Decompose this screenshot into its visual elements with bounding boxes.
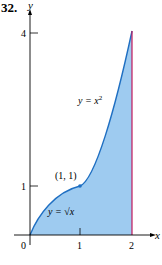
upper-curve-label: y = x2 xyxy=(77,94,103,106)
tick-label-x0: 0 xyxy=(21,240,26,251)
y-axis-label: y xyxy=(27,0,33,11)
x-axis-label: x xyxy=(154,229,160,241)
tick-label-y1: 1 xyxy=(21,181,26,192)
tick-label-x1: 1 xyxy=(77,240,82,251)
exponent: 2 xyxy=(99,94,103,102)
point-marker xyxy=(78,184,82,188)
tick-label-x2: 2 xyxy=(129,240,134,251)
tick-label-y4: 4 xyxy=(21,28,26,39)
area-chart: y x 4 1 0 1 2 (1, 1) y = x2 y = √x xyxy=(0,0,162,265)
point-label: (1, 1) xyxy=(55,170,77,182)
lower-curve-label: y = √x xyxy=(47,206,75,217)
shaded-region xyxy=(30,31,132,235)
